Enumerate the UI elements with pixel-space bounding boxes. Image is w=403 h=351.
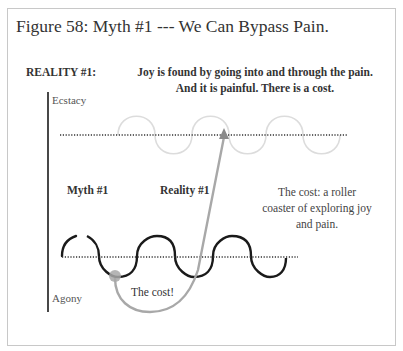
- myth-label: Myth #1: [67, 184, 108, 196]
- lower-dark-wave-start: [62, 236, 76, 256]
- cost-note: The cost: a roller coaster of exploring …: [262, 184, 372, 232]
- cost-marker-label: The cost!: [131, 286, 174, 298]
- agony-label: Agony: [52, 292, 82, 304]
- reality-label: Reality #1: [160, 184, 210, 196]
- arrow-head-icon: [219, 128, 229, 139]
- ecstasy-label: Ecstacy: [52, 94, 86, 106]
